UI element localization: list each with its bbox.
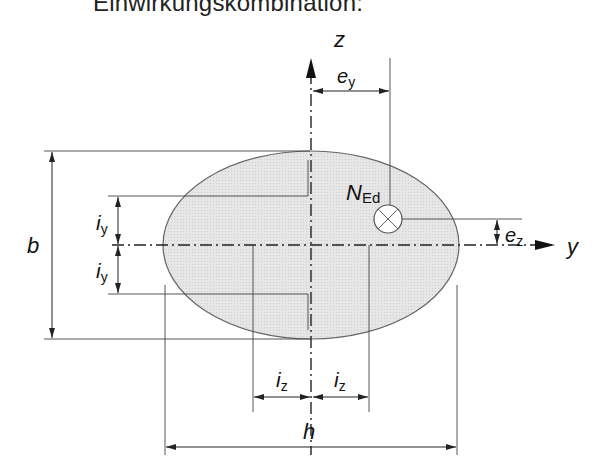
normal-force-icon: [374, 205, 402, 233]
b-label: b: [27, 233, 39, 258]
cross-section-diagram: z y ey ez NEd b iy iy iz iz h: [0, 0, 612, 476]
iz-label-right: iz: [334, 368, 346, 394]
z-axis-arrow-icon: [306, 58, 316, 78]
z-axis-label: z: [333, 27, 345, 52]
iy-label-upper: iy: [96, 211, 108, 237]
ez-label: ez: [505, 224, 523, 249]
y-axis-arrow-icon: [535, 240, 555, 250]
iz-label-left: iz: [276, 368, 288, 394]
ey-label: ey: [337, 65, 355, 90]
h-label: h: [303, 419, 315, 444]
y-axis-label: y: [565, 234, 580, 259]
iy-label-lower: iy: [96, 259, 108, 285]
